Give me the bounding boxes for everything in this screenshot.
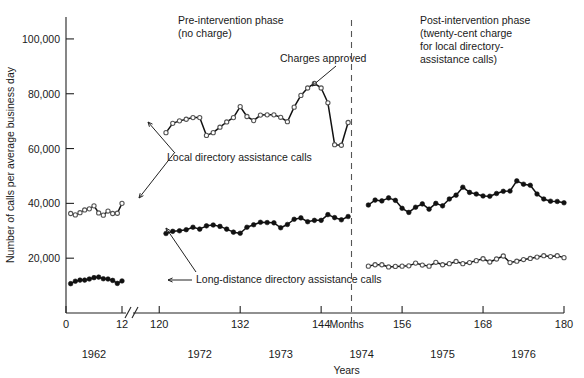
data-point-open-circle (346, 120, 350, 124)
data-point-open-circle (306, 86, 310, 90)
data-point-open-circle (101, 213, 105, 217)
x-tick-label: 120 (150, 318, 168, 330)
x-tick-label: 144 (312, 318, 330, 330)
data-point-open-circle (211, 131, 215, 135)
local-calls-arrow-1962-line (139, 152, 175, 198)
x-tick-label: 12 (116, 318, 128, 330)
pre-intervention-phase-label: Pre-intervention phase(no charge) (178, 14, 284, 39)
data-point-filled-circle (68, 281, 73, 286)
data-point-filled-circle (326, 212, 331, 217)
x-tick-label: 132 (231, 318, 249, 330)
series-line-open-circle (166, 83, 348, 145)
data-point-filled-circle (73, 279, 78, 284)
series-line-filled-circle (166, 215, 348, 234)
data-point-filled-circle (481, 194, 486, 199)
year-label: 1973 (268, 348, 292, 360)
data-point-open-circle (387, 265, 391, 269)
data-point-open-circle (97, 211, 101, 215)
data-point-open-circle (407, 264, 411, 268)
long-distance-arrow-1962 (168, 278, 192, 282)
data-point-open-circle (528, 256, 532, 260)
data-point-filled-circle (440, 204, 445, 209)
data-point-open-circle (218, 125, 222, 129)
y-tick-label: 20,000 (28, 252, 60, 264)
year-label: 1976 (511, 348, 535, 360)
data-point-open-circle (494, 257, 498, 261)
data-point-filled-circle (204, 224, 209, 229)
year-label: 1962 (82, 348, 106, 360)
data-point-filled-circle (366, 203, 371, 208)
directory-assistance-calls-chart: 20,00040,00060,00080,000100,000012120132… (0, 0, 584, 378)
data-point-filled-circle (278, 225, 283, 230)
data-point-open-circle (562, 256, 566, 260)
data-point-open-circle (252, 119, 256, 123)
data-point-open-circle (245, 114, 249, 118)
post-intervention-phase-label-line: for local directory- (420, 40, 504, 52)
data-point-filled-circle (434, 201, 439, 206)
data-point-filled-circle (467, 190, 472, 195)
data-point-open-circle (501, 254, 505, 258)
data-point-filled-circle (170, 229, 175, 234)
data-point-filled-circle (197, 227, 202, 232)
data-point-open-circle (447, 262, 451, 266)
data-point-open-circle (413, 261, 417, 265)
data-point-open-circle (467, 260, 471, 264)
data-point-filled-circle (120, 279, 125, 284)
data-point-filled-circle (177, 228, 182, 233)
series-line-filled-circle (368, 181, 564, 213)
data-point-filled-circle (258, 220, 263, 225)
data-point-filled-circle (487, 194, 492, 199)
data-point-open-circle (258, 113, 262, 117)
charges-approved-label: Charges approved (280, 52, 367, 64)
data-point-open-circle (333, 143, 337, 147)
data-point-open-circle (454, 259, 458, 263)
post-intervention-phase-label-line: Post-intervention phase (420, 14, 530, 26)
data-point-open-circle (231, 115, 235, 119)
data-point-filled-circle (312, 218, 317, 223)
data-point-open-circle (191, 115, 195, 119)
data-point-open-circle (461, 262, 465, 266)
data-point-filled-circle (184, 227, 189, 232)
y-tick-label: 40,000 (28, 197, 60, 209)
data-point-open-circle (366, 264, 370, 268)
data-point-filled-circle (447, 197, 452, 202)
data-point-filled-circle (514, 179, 519, 184)
data-point-filled-circle (96, 275, 101, 280)
data-point-open-circle (380, 263, 384, 267)
data-point-open-circle (83, 208, 87, 212)
data-point-filled-circle (494, 191, 499, 196)
data-point-open-circle (400, 264, 404, 268)
data-point-filled-circle (265, 220, 270, 225)
charges-approved-arrow-line (312, 66, 336, 86)
data-point-filled-circle (101, 276, 106, 281)
data-point-open-circle (440, 263, 444, 267)
local-calls-label: Local directory assistance calls (167, 151, 312, 163)
data-point-open-circle (87, 207, 91, 211)
data-point-filled-circle (541, 197, 546, 202)
charges-approved-arrow (312, 66, 336, 86)
data-point-open-circle (164, 131, 168, 135)
data-point-filled-circle (474, 192, 479, 197)
data-point-filled-circle (461, 185, 466, 190)
y-tick-label: 80,000 (28, 88, 60, 100)
data-point-open-circle (73, 213, 77, 217)
data-point-filled-circle (299, 216, 304, 221)
data-point-filled-circle (528, 183, 533, 188)
post-intervention-phase-label-line: assistance calls) (420, 53, 497, 65)
data-point-filled-circle (218, 224, 223, 229)
data-point-filled-circle (110, 278, 115, 283)
x-tick-label: 180 (555, 318, 573, 330)
data-point-open-circle (427, 264, 431, 268)
chart-page: 20,00040,00060,00080,000100,000012120132… (0, 0, 584, 378)
local-calls-arrow-1962 (139, 152, 175, 198)
data-point-open-circle (319, 86, 323, 90)
data-point-filled-circle (346, 214, 351, 219)
data-point-filled-circle (521, 182, 526, 187)
long-distance-arrow-1971 (166, 228, 196, 272)
data-point-open-circle (521, 257, 525, 261)
data-point-open-circle (272, 113, 276, 117)
y-tick-label: 100,000 (22, 33, 60, 45)
data-point-open-circle (265, 113, 269, 117)
year-label: 1975 (430, 348, 454, 360)
data-point-open-circle (474, 259, 478, 263)
